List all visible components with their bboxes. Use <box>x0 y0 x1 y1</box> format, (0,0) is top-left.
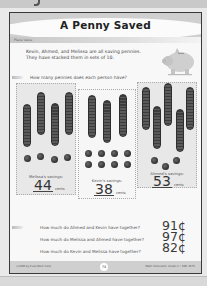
arrow-marker-icon <box>12 76 24 79</box>
section-label: Place Value <box>14 37 32 43</box>
copyright-text: ©2006 by Evan-Moor Corp. <box>16 265 52 268</box>
penny-stack <box>119 94 127 137</box>
penny-stack <box>88 95 96 138</box>
panel-ahmed: Ahmed's savings: 53 cents <box>137 82 197 188</box>
savings-value: 53 <box>152 175 172 188</box>
answer-3: 82¢ <box>162 242 186 254</box>
penny-stack <box>65 92 73 135</box>
penny-stack <box>186 87 194 130</box>
intro-text: Kevin, Ahmed, and Melissa are all saving… <box>26 49 156 62</box>
cents-unit: cents <box>174 183 184 187</box>
penny-coin <box>37 153 44 160</box>
penny-stack <box>37 92 45 135</box>
page-number: 74 <box>100 263 108 271</box>
penny-coin <box>85 150 92 157</box>
section-bar <box>10 37 201 43</box>
penny-stack <box>142 87 150 130</box>
penny-coin <box>98 161 105 168</box>
penny-stack <box>164 83 172 126</box>
penny-coin <box>111 150 118 157</box>
penny-stack <box>51 103 59 146</box>
question-1: How much do Ahmed and Kevin have togethe… <box>40 225 140 230</box>
penny-coin <box>124 161 131 168</box>
penny-coin <box>85 161 92 168</box>
question-3: How much do Kevin and Melissa have toget… <box>40 249 141 254</box>
piggy-bank-icon <box>159 47 199 77</box>
penny-stack <box>23 104 31 147</box>
worksheet-page: A Penny Saved Place Value Kevin, Ahmed, … <box>9 12 202 274</box>
book-reference: Math Homework, Grade 2 • EMC 4575 <box>145 265 195 268</box>
savings-value: 44 <box>33 179 53 192</box>
penny-coin <box>64 154 71 161</box>
page-title: A Penny Saved <box>10 19 201 31</box>
bottom-background-strip <box>0 276 207 286</box>
panel-melissa: Melissa's savings: 44 cents <box>16 83 76 195</box>
penny-coin <box>24 155 31 162</box>
penny-coin <box>98 150 105 157</box>
penny-stack <box>103 100 111 143</box>
penny-coin <box>51 156 58 163</box>
top-background-strip <box>0 0 207 8</box>
savings-value: 38 <box>94 183 114 196</box>
panel-kevin: Kevin's savings: 38 cents <box>78 89 136 199</box>
penny-coin <box>162 163 169 170</box>
page-footer: ©2006 by Evan-Moor Corp. 74 Math Homewor… <box>10 261 201 273</box>
arrow-marker-icon <box>12 226 24 229</box>
cents-unit: cents <box>55 187 65 191</box>
intro-line-2: They have stacked them in sets of 10. <box>26 55 156 61</box>
penny-stack <box>153 106 161 149</box>
penny-stack <box>176 109 184 152</box>
binder-hook-icon <box>34 0 40 6</box>
question-2: How much do Melissa and Ahmed have toget… <box>40 237 144 242</box>
main-question: How many pennies does each person have? <box>30 75 127 80</box>
penny-coin <box>173 157 180 164</box>
penny-coin <box>111 161 118 168</box>
penny-coin <box>124 150 131 157</box>
penny-coin <box>151 157 158 164</box>
cents-unit: cents <box>116 191 126 195</box>
